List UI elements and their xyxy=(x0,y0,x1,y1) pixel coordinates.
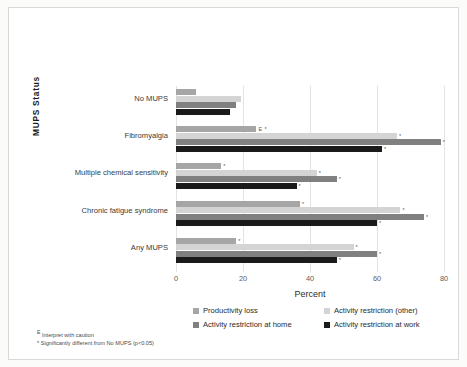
bar-group xyxy=(176,89,467,117)
significance-marker: * xyxy=(339,257,342,263)
bar[interactable] xyxy=(176,146,382,152)
legend-label: Productivity loss xyxy=(203,306,258,315)
legend-item[interactable]: Activity restriction at work xyxy=(324,320,451,329)
significance-marker: * xyxy=(384,146,387,152)
legend-swatch-icon xyxy=(324,322,330,328)
bar-fill xyxy=(176,183,297,189)
bar-fill xyxy=(176,146,382,152)
bar[interactable] xyxy=(176,220,377,226)
bar[interactable] xyxy=(176,214,424,220)
bar-fill xyxy=(176,244,354,250)
bar[interactable] xyxy=(176,201,300,207)
legend-swatch-icon xyxy=(193,308,199,314)
chart-figure: MUPS Status No MUPSFibromyalgiaMultiple … xyxy=(8,7,459,360)
significance-marker: * xyxy=(238,238,241,244)
significance-marker: * xyxy=(426,214,429,220)
significance-marker: * xyxy=(356,244,359,250)
figure-page: MUPS Status No MUPSFibromyalgiaMultiple … xyxy=(0,0,467,367)
significance-marker: * xyxy=(399,133,402,139)
bar[interactable] xyxy=(176,257,337,263)
bar-fill xyxy=(176,207,400,213)
chart-legend: Productivity lossActivity restriction (o… xyxy=(193,306,451,329)
bar-fill xyxy=(176,257,337,263)
footnote-text-2: * Significantly different from No MUPS (… xyxy=(37,340,154,346)
bar[interactable] xyxy=(176,126,256,132)
x-tick-label: 40 xyxy=(306,274,314,284)
bar[interactable] xyxy=(176,251,377,257)
bar-fill xyxy=(176,126,256,132)
x-axis-tick-labels: 020406080 xyxy=(176,274,444,286)
y-tick-label: Multiple chemical sensitivity xyxy=(75,168,168,177)
bar-fill xyxy=(176,96,241,102)
legend-label: Activity restriction (other) xyxy=(334,306,418,315)
legend-swatch-icon xyxy=(193,322,199,328)
y-tick-label: No MUPS xyxy=(134,94,168,103)
bar-fill xyxy=(176,133,397,139)
significance-marker: * xyxy=(299,183,302,189)
bar[interactable] xyxy=(176,89,196,95)
bar-group: E **** xyxy=(176,126,467,154)
bar[interactable] xyxy=(176,133,397,139)
bar[interactable] xyxy=(176,207,400,213)
bar[interactable] xyxy=(176,176,337,182)
bar-fill xyxy=(176,214,424,220)
y-axis-tick-labels: No MUPSFibromyalgiaMultiple chemical sen… xyxy=(49,86,172,272)
bar[interactable] xyxy=(176,163,221,169)
bar[interactable] xyxy=(176,109,230,115)
bar-fill xyxy=(176,170,317,176)
legend-item[interactable]: Activity restriction at home xyxy=(193,320,320,329)
significance-marker: * xyxy=(302,201,305,207)
significance-marker: * xyxy=(443,139,446,145)
significance-marker: * xyxy=(223,163,226,169)
bar[interactable] xyxy=(176,170,317,176)
bar[interactable] xyxy=(176,96,241,102)
x-tick-label: 60 xyxy=(373,274,381,284)
significance-marker: * xyxy=(402,207,405,213)
x-tick-label: 20 xyxy=(239,274,247,284)
legend-label: Activity restriction at work xyxy=(334,320,420,329)
bar-fill xyxy=(176,89,196,95)
significance-marker: * xyxy=(319,170,322,176)
bar[interactable] xyxy=(176,238,236,244)
significance-marker: E * xyxy=(258,126,267,132)
footnote-text-1: Interpret with caution xyxy=(42,332,94,338)
x-tick-label: 0 xyxy=(174,274,178,284)
legend-item[interactable]: Activity restriction (other) xyxy=(324,306,451,315)
bar-fill xyxy=(176,102,236,108)
y-tick-label: Any MUPS xyxy=(131,243,168,252)
bar[interactable] xyxy=(176,183,297,189)
bar[interactable] xyxy=(176,244,354,250)
legend-swatch-icon xyxy=(324,308,330,314)
bar-fill xyxy=(176,109,230,115)
bar-group: **** xyxy=(176,238,467,266)
bar-fill xyxy=(176,220,377,226)
chart-footnotes: E Interpret with caution * Significantly… xyxy=(37,328,197,347)
bar-fill xyxy=(176,201,300,207)
y-tick-label: Fibromyalgia xyxy=(125,131,168,140)
plot-area: E **************** xyxy=(176,86,444,272)
significance-marker: * xyxy=(379,220,382,226)
bar[interactable] xyxy=(176,102,236,108)
y-axis-title: MUPS Status xyxy=(31,76,41,136)
legend-label: Activity restriction at home xyxy=(203,320,292,329)
x-axis-title: Percent xyxy=(176,289,444,299)
significance-marker: * xyxy=(379,251,382,257)
footnote-interpret-with-caution: E Interpret with caution xyxy=(37,328,197,339)
bar-group: **** xyxy=(176,201,467,229)
y-tick-label: Chronic fatigue syndrome xyxy=(81,206,168,215)
bar[interactable] xyxy=(176,139,441,145)
bar-group: **** xyxy=(176,163,467,191)
footnote-significance: * Significantly different from No MUPS (… xyxy=(37,339,197,347)
bar-fill xyxy=(176,139,441,145)
bar-fill xyxy=(176,163,221,169)
bar-fill xyxy=(176,251,377,257)
significance-marker: * xyxy=(339,176,342,182)
bar-fill xyxy=(176,176,337,182)
bar-fill xyxy=(176,238,236,244)
x-tick-label: 80 xyxy=(440,274,448,284)
legend-item[interactable]: Productivity loss xyxy=(193,306,320,315)
